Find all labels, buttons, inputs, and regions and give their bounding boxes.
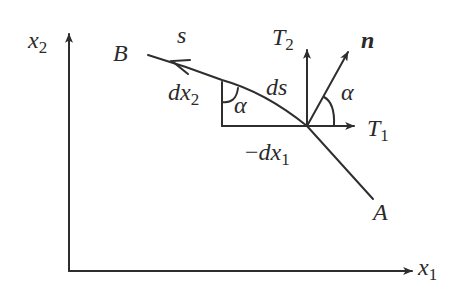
alpha-label-normal: α: [341, 79, 354, 105]
x1-axis-label: x1: [417, 254, 437, 284]
point-b-label: B: [113, 40, 128, 66]
x2-axis-label: x2: [27, 27, 47, 57]
t2-label: T2: [272, 24, 294, 54]
point-a-label: A: [371, 199, 388, 225]
normal-vector-label: n: [361, 27, 374, 53]
alpha-angle-arc-normal: [324, 97, 334, 125]
minus-dx1-label: −dx1: [245, 139, 290, 169]
coordinate-axes: [69, 34, 412, 271]
dx2-label: dx2: [168, 79, 199, 109]
alpha-label-element: α: [234, 92, 247, 118]
ds-label: ds: [266, 74, 287, 100]
t1-label: T1: [367, 115, 389, 145]
arc-s-label: s: [177, 22, 186, 48]
diagram-canvas: x2 x1 B A s dx2 α ds −dx1 T2 T1 n α: [0, 0, 470, 300]
